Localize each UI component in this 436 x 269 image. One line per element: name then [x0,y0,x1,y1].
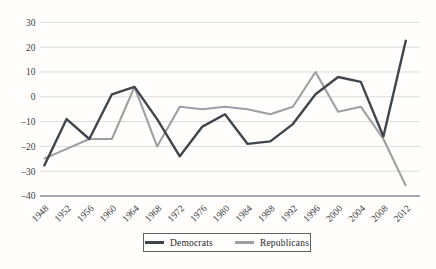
republicans-line [44,72,406,186]
republicans-legend-label: Republicans [260,238,309,248]
y-axis-tick-label: –30 [20,167,36,177]
y-axis-tick-label: –20 [20,142,36,152]
x-axis-tick-label: 1984 [234,203,255,224]
x-axis-tick-label: 1988 [256,203,277,224]
democrats-line-swatch [145,241,164,244]
x-axis-tick-label: 2008 [369,203,390,224]
x-axis-tick-label: 1992 [279,203,300,224]
chart-plot-area: 3020100–10–20–30–40194819521956196019641… [0,0,436,269]
chart-legend: Democrats Republicans [143,233,311,252]
y-axis-tick-label: –10 [20,117,36,127]
democrats-legend-label: Democrats [170,238,213,248]
y-axis-tick-label: 10 [26,67,36,77]
y-axis-tick-label: 0 [31,92,36,102]
x-axis-tick-label: 1976 [188,203,209,224]
y-axis-tick-label: 30 [26,18,36,28]
legend-item-republicans: Republicans [235,238,309,248]
x-axis-tick-label: 1952 [53,203,74,224]
x-axis-tick-label: 1964 [120,203,141,224]
y-axis-tick-label: 20 [26,43,36,53]
x-axis-tick-label: 1980 [211,203,232,224]
election-line-chart-figure: 3020100–10–20–30–40194819521956196019641… [0,0,436,269]
x-axis-tick-label: 1948 [30,203,51,224]
x-axis-tick-label: 2012 [392,203,413,224]
y-axis-tick-label: –40 [20,191,36,201]
x-axis-tick-label: 1956 [75,203,96,224]
x-axis-tick-label: 1972 [166,203,187,224]
x-axis-tick-label: 1960 [98,203,119,224]
legend-item-democrats: Democrats [145,238,213,248]
x-axis-tick-label: 2000 [324,203,345,224]
x-axis-tick-label: 1996 [301,203,322,224]
x-axis-tick-label: 1968 [143,203,164,224]
x-axis-tick-label: 2004 [347,203,368,224]
republicans-line-swatch [235,241,254,244]
democrats-line [44,40,406,166]
